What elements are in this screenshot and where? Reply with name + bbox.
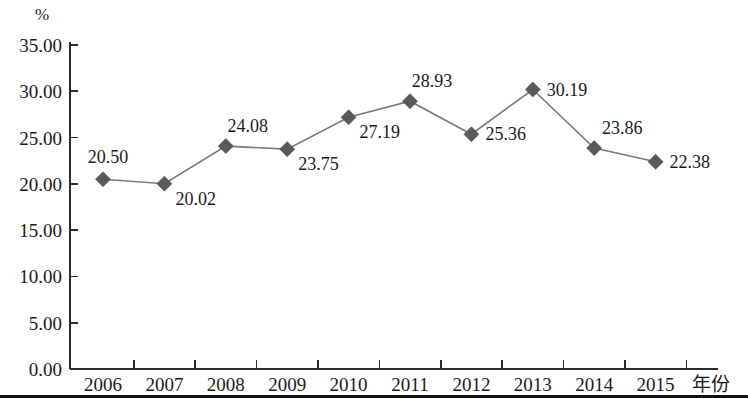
chart-canvas: % 0.005.0010.0015.0020.0025.0030.0035.00… bbox=[0, 0, 748, 398]
data-point-value-label: 20.50 bbox=[88, 147, 129, 167]
x-axis-tick-label: 2009 bbox=[268, 374, 306, 395]
data-point-marker bbox=[648, 154, 663, 169]
data-point-value-label: 24.08 bbox=[228, 116, 269, 136]
data-point-value-label: 27.19 bbox=[360, 122, 401, 142]
data-point-marker bbox=[403, 94, 418, 109]
y-axis-tick-label: 35.00 bbox=[19, 35, 62, 56]
y-axis-tick-label: 20.00 bbox=[19, 174, 62, 195]
data-point-value-label: 23.75 bbox=[298, 154, 339, 174]
y-axis-tick-label: 0.00 bbox=[29, 359, 62, 380]
data-point-marker bbox=[157, 176, 172, 191]
y-axis-tick-labels: 0.005.0010.0015.0020.0025.0030.0035.00 bbox=[19, 35, 62, 380]
data-point-value-label: 20.02 bbox=[175, 189, 216, 209]
y-axis-tick-label: 10.00 bbox=[19, 266, 62, 287]
data-point-value-label: 23.86 bbox=[602, 118, 643, 138]
x-axis-tick-labels: 2006200720082009201020112012201320142015 bbox=[84, 374, 675, 395]
data-point-value-label: 30.19 bbox=[547, 80, 588, 100]
x-axis-tick-label: 2007 bbox=[145, 374, 183, 395]
x-axis-title: 年份 bbox=[692, 374, 730, 395]
x-axis-tick-label: 2011 bbox=[391, 374, 428, 395]
y-axis-tick-marks bbox=[70, 45, 78, 369]
data-point-value-label: 25.36 bbox=[485, 124, 526, 144]
x-axis-tick-marks bbox=[134, 360, 687, 369]
x-axis-tick-label: 2014 bbox=[575, 374, 614, 395]
data-point-marker bbox=[218, 139, 233, 154]
x-axis-tick-label: 2012 bbox=[452, 374, 490, 395]
data-point-labels: 20.5020.0224.0823.7527.1928.9325.3630.19… bbox=[88, 71, 710, 208]
data-point-value-label: 28.93 bbox=[412, 71, 453, 91]
data-point-marker bbox=[96, 172, 111, 187]
y-axis-tick-label: 15.00 bbox=[19, 220, 62, 241]
x-axis-tick-label: 2006 bbox=[84, 374, 122, 395]
x-axis-tick-label: 2013 bbox=[514, 374, 552, 395]
x-axis-tick-label: 2015 bbox=[637, 374, 675, 395]
data-point-marker bbox=[341, 110, 356, 125]
y-axis-tick-label: 5.00 bbox=[29, 313, 62, 334]
y-axis-tick-label: 30.00 bbox=[19, 81, 62, 102]
x-axis-tick-label: 2008 bbox=[207, 374, 245, 395]
y-axis-unit-label: % bbox=[35, 5, 49, 24]
line-chart: % 0.005.0010.0015.0020.0025.0030.0035.00… bbox=[0, 0, 748, 398]
x-axis-tick-label: 2010 bbox=[330, 374, 368, 395]
data-point-marker bbox=[280, 142, 295, 157]
y-axis-tick-label: 25.00 bbox=[19, 128, 62, 149]
data-point-value-label: 22.38 bbox=[670, 152, 711, 172]
data-point-marker bbox=[464, 127, 479, 142]
